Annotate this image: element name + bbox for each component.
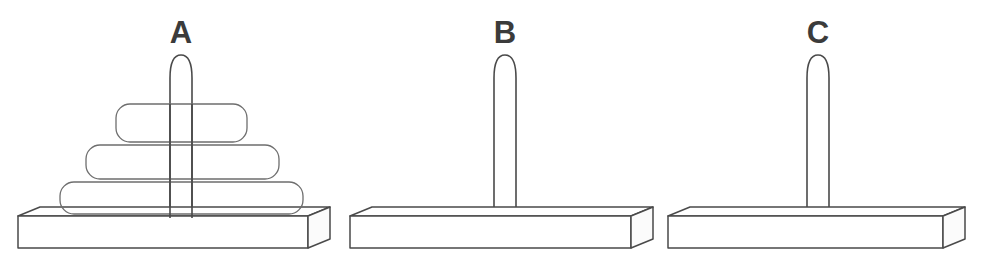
base-plate-c-front xyxy=(668,216,943,248)
peg-group-c[interactable] xyxy=(668,55,965,248)
peg-group-a[interactable] xyxy=(18,55,330,248)
peg-rod-a-overlay xyxy=(170,104,192,218)
base-plate-b-front xyxy=(350,216,631,248)
peg-label-a: A xyxy=(151,17,211,48)
base-plate-a-front xyxy=(18,216,308,248)
peg-label-b: B xyxy=(475,17,535,48)
peg-label-c: C xyxy=(788,17,848,48)
disk-small-a[interactable] xyxy=(116,104,247,142)
base-plate-c-top xyxy=(668,207,965,216)
tower-of-hanoi-diagram: A B C xyxy=(0,0,989,274)
peg-rod-a[interactable] xyxy=(170,55,192,218)
peg-rod-b[interactable] xyxy=(494,55,516,218)
peg-rod-c[interactable] xyxy=(807,55,829,218)
base-plate-b-top xyxy=(350,207,653,216)
disk-medium-a[interactable] xyxy=(86,145,279,179)
peg-group-b[interactable] xyxy=(350,55,653,248)
